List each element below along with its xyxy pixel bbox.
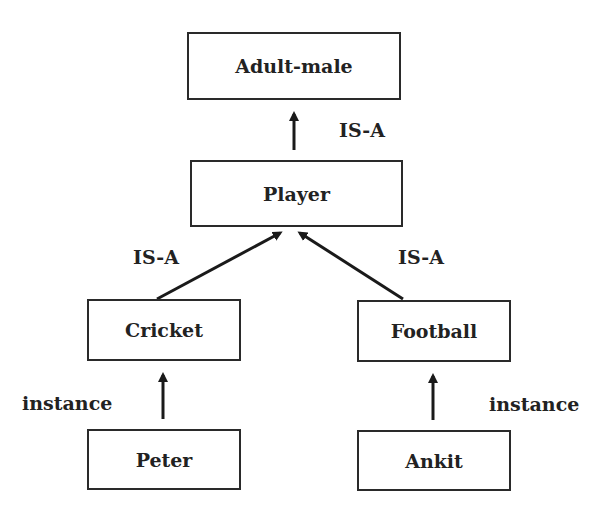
semantic-network-diagram: Adult-male Player Cricket Football Peter… (0, 0, 596, 517)
edge-football-to-player (300, 233, 403, 299)
edge-label-player-adult-male: IS-A (339, 119, 385, 141)
node-player: Player (190, 160, 403, 227)
node-adult-male: Adult-male (187, 32, 401, 100)
edge-label-ankit-football: instance (489, 393, 579, 415)
node-football: Football (357, 300, 511, 362)
edge-label-cricket-player: IS-A (133, 246, 179, 268)
edge-label-peter-cricket: instance (22, 392, 112, 414)
node-ankit: Ankit (357, 430, 511, 491)
node-peter: Peter (87, 429, 241, 490)
edge-label-football-player: IS-A (398, 246, 444, 268)
node-cricket: Cricket (87, 299, 241, 361)
